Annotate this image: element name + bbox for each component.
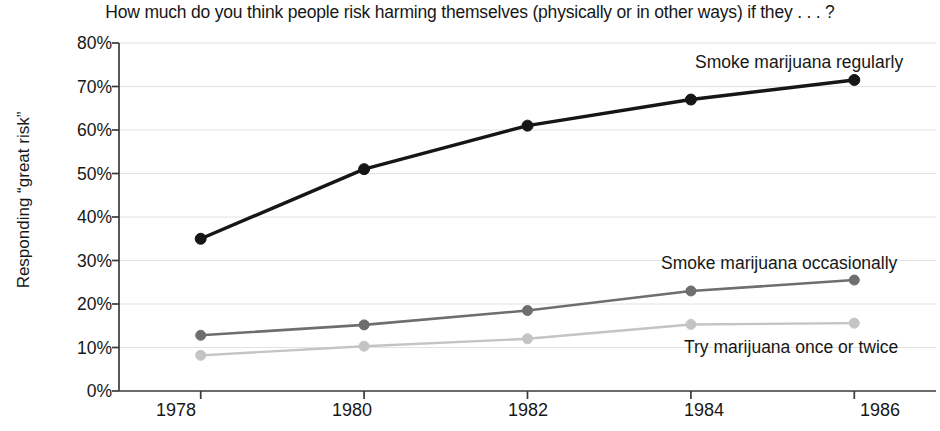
series-label-try-marijuana-once-or-twice: Try marijuana once or twice bbox=[684, 337, 898, 358]
gridlines bbox=[119, 43, 936, 348]
series-label-smoke-marijuana-regularly: Smoke marijuana regularly bbox=[695, 52, 903, 73]
chart-container: How much do you think people risk harmin… bbox=[0, 0, 940, 431]
series-label-smoke-marijuana-occasionally: Smoke marijuana occasionally bbox=[661, 253, 897, 274]
